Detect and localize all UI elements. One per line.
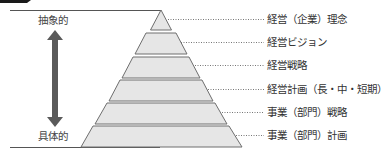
level-label-6: 事業（部門）計画	[267, 129, 347, 141]
level-label-3: 経営戦略	[267, 59, 307, 71]
abstract-label: 抽象的	[38, 14, 68, 26]
pyramid-tier-3	[122, 57, 200, 78]
double-arrow-icon	[47, 30, 63, 127]
pyramid-tier-6	[81, 126, 242, 147]
pyramid-diagram: 抽象的 具体的 経営（企業）理念 経営ビジョン 経営戦略 経営計画（長・中・短期…	[0, 0, 387, 157]
pyramid-tier-4	[109, 80, 213, 101]
level-label-2: 経営ビジョン	[267, 36, 327, 48]
concrete-label: 具体的	[38, 130, 68, 142]
level-label-4: 経営計画（長・中・短期）	[267, 83, 387, 95]
pyramid-tier-5	[95, 103, 227, 124]
pyramid-tier-2	[135, 33, 187, 54]
corner-tab	[0, 0, 31, 3]
level-label-1: 経営（企業）理念	[267, 13, 347, 25]
level-label-5: 事業（部門）戦略	[267, 106, 347, 118]
